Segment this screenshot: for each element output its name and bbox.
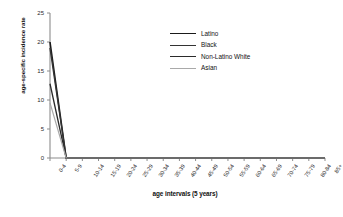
legend-swatch	[170, 56, 196, 57]
x-axis-title: age intervals (5 years)	[40, 190, 330, 197]
y-axis-tick-label: 25	[22, 10, 44, 16]
y-axis-tick-labels: 0510152025	[14, 0, 44, 217]
legend-label: Non-Latino White	[201, 54, 250, 60]
y-axis-tick-label: 10	[22, 97, 44, 103]
legend-swatch	[170, 68, 196, 69]
y-axis-tick-label: 20	[22, 39, 44, 45]
series-line	[50, 103, 325, 158]
chart-legend: LatinoBlackNon-Latino WhiteAsian	[170, 28, 250, 74]
legend-label: Latino	[201, 31, 218, 37]
y-axis-tick-label: 5	[22, 126, 44, 132]
legend-item: Asian	[170, 63, 250, 75]
legend-item: Black	[170, 40, 250, 52]
legend-swatch	[170, 33, 196, 34]
legend-swatch	[170, 45, 196, 46]
y-axis-tick-label: 0	[22, 155, 44, 161]
legend-label: Asian	[201, 65, 217, 71]
legend-item: Latino	[170, 28, 250, 40]
legend-label: Black	[201, 42, 217, 48]
series-line	[50, 84, 325, 158]
legend-item: Non-Latino White	[170, 51, 250, 63]
y-axis-tick-label: 15	[22, 68, 44, 74]
